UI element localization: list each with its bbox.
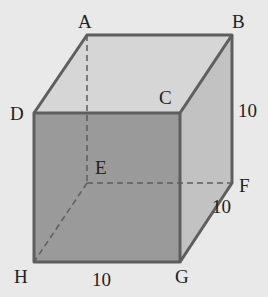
vertex-label-h: H [14, 266, 28, 287]
dimension-label-hg: 10 [92, 269, 111, 290]
vertex-label-a: A [78, 11, 92, 32]
vertex-label-f: F [239, 175, 250, 196]
vertex-label-b: B [232, 11, 245, 32]
dimension-label-gf: 10 [212, 196, 231, 217]
vertex-label-g: G [175, 266, 189, 287]
vertex-label-e: E [95, 157, 107, 178]
cube-diagram: A B C D E F G H 10 10 10 [0, 0, 268, 297]
dimension-label-bf: 10 [238, 100, 257, 121]
vertex-label-c: C [159, 87, 172, 108]
front-face-dcgh [34, 113, 180, 262]
cube-figure: A B C D E F G H 10 10 10 [0, 0, 268, 297]
vertex-label-d: D [10, 103, 24, 124]
